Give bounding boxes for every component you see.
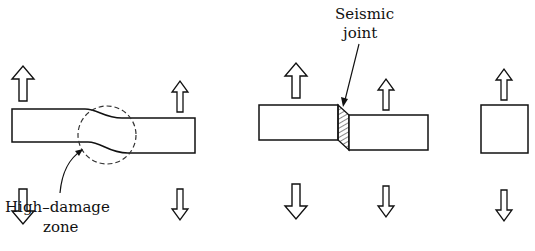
left-block	[259, 105, 338, 140]
arrow-down-icon	[496, 190, 512, 221]
arrow-up-icon	[12, 66, 34, 101]
arrow-down-icon	[172, 189, 188, 220]
arrow-down-icon	[378, 186, 394, 217]
seismic-joint-diagram: High–damage zone Seismic joint	[0, 0, 535, 251]
square-block	[481, 105, 528, 153]
label-high-damage: High–damage	[5, 198, 110, 216]
right-block	[349, 115, 428, 150]
label-seismic: Seismic	[335, 5, 394, 23]
arrow-up-icon	[172, 81, 188, 112]
seismic-joint-hatch	[338, 105, 349, 150]
label-zone: zone	[43, 218, 79, 236]
panel-single-block	[481, 69, 528, 221]
stepped-building-outline	[12, 109, 195, 153]
pointer-arrow	[60, 150, 82, 193]
label-joint: joint	[341, 24, 377, 42]
panel-separated-building: Seismic joint	[259, 5, 428, 219]
arrow-up-icon	[378, 79, 394, 110]
arrow-down-icon	[285, 184, 307, 219]
pointer-arrow	[345, 44, 359, 100]
arrow-up-icon	[285, 63, 307, 98]
panel-continuous-building: High–damage zone	[5, 66, 195, 236]
arrow-up-icon	[496, 69, 512, 100]
